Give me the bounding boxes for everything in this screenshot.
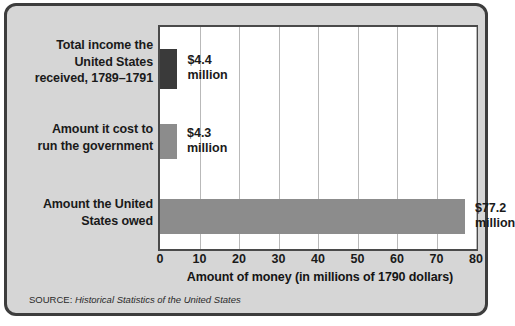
bar-value-label-1: $4.3 million bbox=[187, 126, 227, 156]
x-tick-label-0: 0 bbox=[157, 252, 164, 266]
x-tick-label-50: 50 bbox=[351, 252, 365, 266]
x-axis-ticks: 01020304050607080 bbox=[158, 252, 478, 270]
x-tick-label-80: 80 bbox=[469, 252, 483, 266]
x-tick-label-40: 40 bbox=[311, 252, 325, 266]
x-tick-label-10: 10 bbox=[193, 252, 207, 266]
plot-area: $4.4 million$4.3 million$77.2 million bbox=[158, 25, 478, 251]
bar-0 bbox=[160, 49, 177, 89]
x-tick-label-60: 60 bbox=[390, 252, 404, 266]
bar-1 bbox=[160, 124, 177, 159]
x-axis-title: Amount of money (in millions of 1790 dol… bbox=[158, 270, 482, 284]
category-label-amount-owed: Amount the United States owed bbox=[43, 196, 153, 229]
source-prefix: SOURCE: bbox=[29, 294, 75, 305]
bar-value-label-2: $77.2 million bbox=[475, 201, 515, 231]
bar-value-label-0: $4.4 million bbox=[187, 53, 227, 83]
x-tick-label-70: 70 bbox=[430, 252, 444, 266]
source-note: SOURCE: Historical Statistics of the Uni… bbox=[29, 294, 241, 305]
chart-figure: Total income the United States received,… bbox=[4, 3, 488, 316]
x-tick-label-20: 20 bbox=[232, 252, 246, 266]
category-label-government-cost: Amount it cost to run the government bbox=[37, 121, 153, 154]
bars-group: $4.4 million$4.3 million$77.2 million bbox=[160, 27, 476, 249]
x-tick-label-30: 30 bbox=[272, 252, 286, 266]
category-label-total-income: Total income the United States received,… bbox=[35, 37, 153, 87]
source-title: Historical Statistics of the United Stat… bbox=[75, 294, 241, 305]
bar-2 bbox=[160, 199, 465, 234]
